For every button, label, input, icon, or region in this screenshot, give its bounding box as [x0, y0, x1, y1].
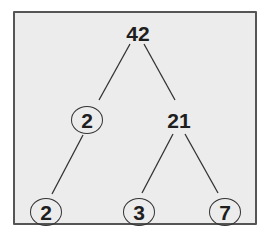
- node-42: 42: [126, 23, 149, 44]
- edge-21-3: [142, 134, 173, 193]
- edge-21-7: [185, 134, 218, 193]
- edge-2-2: [52, 135, 83, 194]
- edge-42-2: [99, 44, 130, 100]
- leaf-2-circled: 2: [30, 198, 62, 226]
- edge-42-21: [144, 44, 175, 100]
- node-2-circled: 2: [71, 106, 103, 134]
- leaf-3-circled: 3: [123, 198, 155, 226]
- node-21: 21: [167, 110, 190, 131]
- leaf-7-circled: 7: [209, 198, 241, 226]
